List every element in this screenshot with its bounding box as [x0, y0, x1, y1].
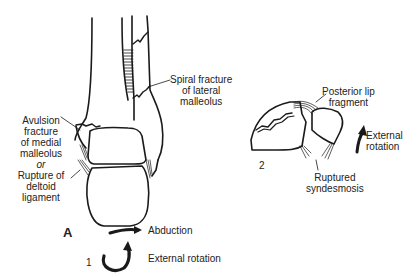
label-posterior-lip: Posterior lip fragment — [322, 86, 375, 108]
label-external-rotation-2: External rotation — [366, 130, 403, 152]
label-spiral-fracture: Spiral fracture of lateral malleolus — [170, 74, 232, 107]
tibia-lateral-outline — [251, 102, 306, 150]
fibula-lateral-outline — [312, 108, 343, 144]
syndesmosis-hatching — [300, 144, 334, 159]
label-line: Ruptured — [306, 172, 364, 183]
label-external-rotation: External rotation — [148, 253, 221, 264]
label-line: deltoid — [10, 181, 72, 192]
label-abduction: Abduction — [148, 225, 192, 236]
abduction-arrow-icon — [110, 230, 138, 233]
label-line: of medial — [10, 137, 72, 148]
label-line: rotation — [366, 141, 403, 152]
label-line: ligament — [10, 192, 72, 203]
tibia-outline — [75, 18, 92, 140]
stage-number-2: 2 — [259, 160, 265, 171]
label-line: syndesmosis — [306, 183, 364, 194]
label-avulsion: Avulsion fracture of medial malleolus or… — [10, 115, 72, 203]
ankle-fracture-diagram: Spiral fracture of lateral malleolus Avu… — [0, 0, 420, 277]
label-line: Avulsion — [10, 115, 72, 126]
panel-letter: A — [63, 227, 72, 238]
label-line: malleolus — [10, 148, 72, 159]
label-syndesmosis: Ruptured syndesmosis — [306, 172, 364, 194]
label-line: Spiral fracture — [170, 74, 232, 85]
label-line: of lateral — [170, 85, 232, 96]
label-line: or — [10, 159, 72, 170]
stage-number-1: 1 — [86, 257, 92, 268]
external-rotation-curved-arrow-icon — [103, 248, 129, 270]
label-line: fracture — [10, 126, 72, 137]
label-line: Rupture of — [10, 170, 72, 181]
label-line: Posterior lip — [322, 86, 375, 97]
posterior-ligament-hatching — [294, 101, 318, 114]
label-line: fragment — [322, 97, 375, 108]
talus-outline — [88, 128, 146, 164]
external-rotation-arrow-icon — [357, 132, 363, 152]
label-line: External — [366, 130, 403, 141]
label-line: malleolus — [170, 96, 232, 107]
calcaneus-outline — [87, 166, 149, 226]
